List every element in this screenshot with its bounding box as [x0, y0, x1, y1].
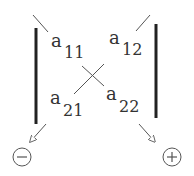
- determinant-diagram: a 11 a 12 a 21 a 22: [0, 0, 194, 176]
- minus-sign-icon: [13, 148, 31, 166]
- element-a22: a 22: [106, 83, 139, 116]
- svg-text:12: 12: [122, 40, 142, 59]
- svg-text:a: a: [109, 27, 120, 48]
- element-a12: a 12: [109, 27, 142, 59]
- svg-text:22: 22: [119, 97, 139, 116]
- anti-diagonal-cross-line: [74, 64, 104, 94]
- svg-text:a: a: [50, 87, 61, 108]
- plus-sign-icon: [163, 148, 181, 166]
- anti-diagonal-start-line: [136, 15, 150, 31]
- element-a21: a 21: [50, 87, 83, 120]
- plus-arrow: [139, 124, 155, 142]
- svg-text:a: a: [51, 30, 62, 51]
- minus-arrow: [30, 124, 46, 142]
- element-a11: a 11: [51, 30, 84, 62]
- svg-text:21: 21: [63, 101, 83, 120]
- svg-text:11: 11: [64, 43, 84, 62]
- svg-text:a: a: [106, 83, 117, 104]
